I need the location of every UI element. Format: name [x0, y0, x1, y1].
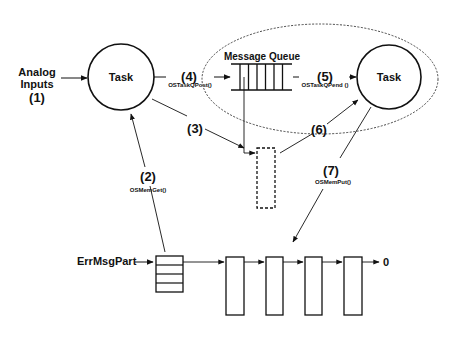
rtos-message-flow-diagram: Analog Inputs (1) Task (4) OSTaskQPost()…	[0, 0, 455, 337]
queue-entry-pointer	[244, 77, 255, 153]
fill-message-arrow	[152, 99, 187, 116]
step-7-label: (7)	[323, 163, 339, 178]
free-list-null: 0	[383, 256, 389, 268]
step-6-label: (6)	[311, 122, 327, 137]
step-2-call: OSMemGet()	[130, 187, 166, 193]
task-right-label: Task	[377, 71, 402, 83]
step-1-label: (1)	[29, 90, 45, 105]
step-4-call: OSTaskQPost()	[168, 82, 212, 88]
step-7-call: OSMemPut()	[315, 179, 351, 185]
task-right: Task	[357, 45, 421, 109]
partition-control-block	[156, 256, 183, 292]
free-block-1	[226, 257, 244, 315]
message-queue-title: Message Queue	[224, 51, 301, 62]
free-block-3	[305, 257, 322, 315]
free-block-2	[266, 257, 283, 315]
return-block-arrow-2	[293, 189, 323, 242]
fill-message-arrow-2	[205, 129, 244, 148]
analog-inputs-line2: Inputs	[21, 78, 54, 90]
task-left-label: Task	[109, 71, 134, 83]
analog-inputs-label: Analog Inputs (1)	[18, 66, 55, 105]
get-block-arrow-2	[131, 114, 145, 167]
message-block	[257, 148, 275, 208]
task-left: Task	[88, 44, 154, 110]
get-block-arrow	[150, 186, 165, 252]
partition-label: ErrMsgPart	[77, 255, 137, 267]
step-5-call: OSTaskQPend ()	[302, 82, 349, 88]
read-message-arrow	[280, 134, 312, 153]
analog-inputs-line1: Analog	[18, 66, 55, 78]
step-2-label: (2)	[140, 169, 156, 184]
read-message-arrow-2	[327, 100, 358, 124]
message-queue: Message Queue	[224, 51, 301, 90]
step-3-label: (3)	[187, 121, 203, 136]
free-block-4	[344, 257, 362, 315]
